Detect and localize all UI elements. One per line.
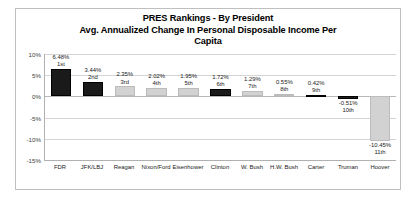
bar-rank: 11th [360, 149, 400, 156]
bar [370, 96, 390, 140]
x-axis-tick-label: W. Bush [236, 164, 268, 178]
bar-slot: 0.55%8th [268, 54, 300, 160]
plot-area: 6.48%1st3.44%2nd2.35%3rd2.02%4th1.95%5th… [44, 54, 396, 160]
plot-wrapper: 10%5%0%-5%-10%-15% 6.48%1st3.44%2nd2.35%… [16, 54, 402, 190]
bar-rank: 10th [328, 107, 368, 114]
y-axis-tick-label: 10% [29, 51, 41, 58]
bar [115, 86, 135, 96]
bar [338, 96, 358, 98]
bar-value-label: 0.42%9th [296, 80, 336, 94]
y-axis: 10%5%0%-5%-10%-15% [16, 54, 43, 160]
y-axis-tick-label: -10% [27, 135, 41, 142]
bar-value: 0.42% [296, 80, 336, 87]
bar-value-label: -0.51%10th [328, 100, 368, 114]
bar-value-label: -10.45%11th [360, 142, 400, 156]
x-axis-tick-label: FDR [44, 164, 76, 178]
chart-title-line-3: Capita [16, 36, 400, 48]
bar [83, 82, 103, 97]
x-axis-tick-label: JFK/LBJ [76, 164, 108, 178]
bar [274, 94, 294, 96]
bar-slot: 2.02%4th [141, 54, 173, 160]
x-axis-tick-label: Carter [300, 164, 332, 178]
bar-slot: -10.45%11th [364, 54, 396, 160]
bar [51, 69, 71, 96]
y-axis-tick-label: 0% [32, 93, 41, 100]
x-axis-tick-label: Truman [332, 164, 364, 178]
x-axis-tick-label: Hoover [364, 164, 396, 178]
bar-value: 6.48% [41, 54, 81, 61]
chart-title-line-2: Avg. Annualized Change In Personal Dispo… [16, 25, 400, 37]
bar [242, 91, 262, 96]
bar-slot: 3.44%2nd [77, 54, 109, 160]
x-axis-tick-label: Clinton [204, 164, 236, 178]
bar-slot: 1.95%5th [173, 54, 205, 160]
chart-container: PRES Rankings - By President Avg. Annual… [15, 8, 401, 190]
x-axis-tick-label: H.W. Bush [268, 164, 300, 178]
y-axis-tick-label: 5% [32, 72, 41, 79]
bar-value: -0.51% [328, 100, 368, 107]
bar [178, 88, 198, 96]
chart-title: PRES Rankings - By President Avg. Annual… [16, 13, 400, 48]
bar-slot: 1.29%7th [236, 54, 268, 160]
x-axis-tick-label: Eisenhower [172, 164, 204, 178]
x-axis-tick-label: Nixon/Ford [140, 164, 172, 178]
bar-value: -10.45% [360, 142, 400, 149]
chart-title-line-1: PRES Rankings - By President [16, 13, 400, 25]
bar [146, 88, 166, 97]
bar-slot: 2.35%3rd [109, 54, 141, 160]
x-axis-line [44, 160, 396, 161]
x-axis-tick-label: Reagan [108, 164, 140, 178]
bar-slot: 1.72%6th [205, 54, 237, 160]
bar [306, 95, 326, 97]
bar-rank: 9th [296, 87, 336, 94]
y-axis-tick-label: -5% [30, 114, 41, 121]
x-axis: FDRJFK/LBJReaganNixon/FordEisenhowerClin… [44, 164, 396, 178]
bar-series: 6.48%1st3.44%2nd2.35%3rd2.02%4th1.95%5th… [45, 54, 396, 160]
bar [210, 89, 230, 96]
y-axis-tick-label: -15% [27, 157, 41, 164]
